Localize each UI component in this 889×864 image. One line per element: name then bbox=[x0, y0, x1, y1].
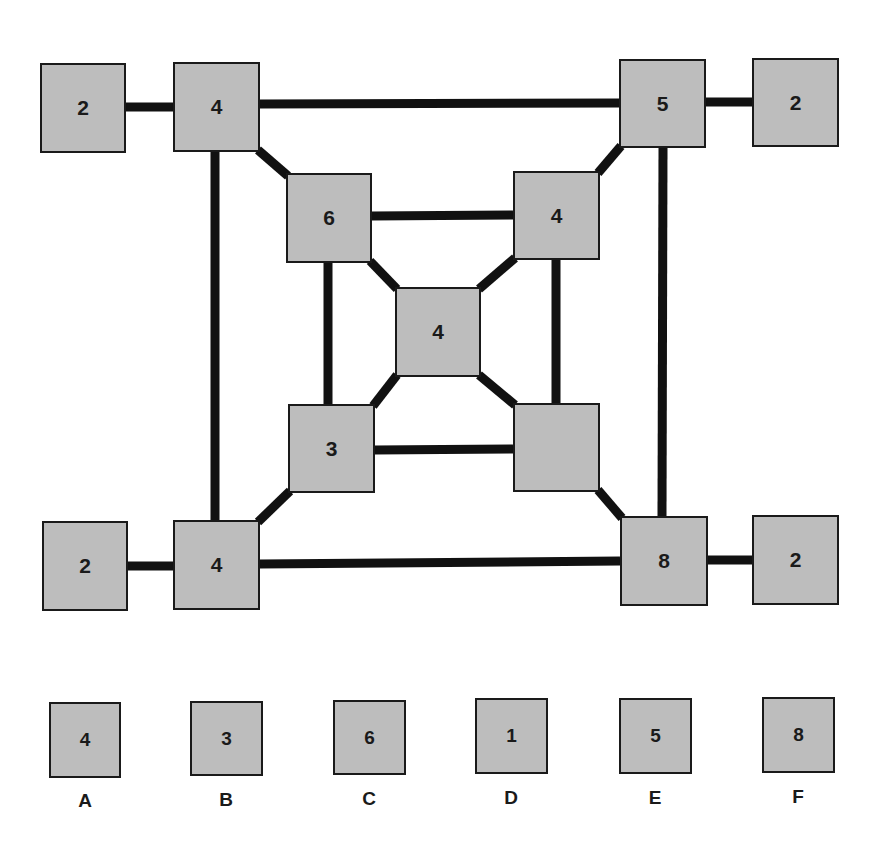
option-value: 1 bbox=[506, 725, 517, 747]
node-value: 6 bbox=[323, 206, 335, 230]
option-e-label: E bbox=[619, 787, 691, 809]
option-f-box[interactable]: 8 bbox=[762, 697, 835, 773]
option-d-label: D bbox=[475, 787, 547, 809]
option-c-box[interactable]: 6 bbox=[333, 700, 406, 775]
node-value: 2 bbox=[790, 548, 802, 572]
node-value: 4 bbox=[211, 95, 223, 119]
node-value: 4 bbox=[432, 320, 444, 344]
option-c-label: C bbox=[333, 788, 405, 810]
node-top-right-outer: 2 bbox=[752, 58, 839, 147]
node-value: 4 bbox=[551, 204, 563, 228]
option-e-box[interactable]: 5 bbox=[619, 698, 692, 774]
node-value: 2 bbox=[77, 96, 89, 120]
option-b-box[interactable]: 3 bbox=[190, 701, 263, 776]
option-value: 5 bbox=[650, 725, 661, 747]
node-inner-top-right: 4 bbox=[513, 171, 600, 260]
option-f-label: F bbox=[762, 786, 834, 808]
node-top-left-outer: 2 bbox=[40, 63, 126, 153]
node-top-right: 5 bbox=[619, 59, 706, 148]
node-value: 8 bbox=[658, 549, 670, 573]
node-bottom-left-outer: 2 bbox=[42, 521, 128, 611]
node-bottom-right: 8 bbox=[620, 516, 708, 606]
option-a-label: A bbox=[49, 790, 121, 812]
node-top-left: 4 bbox=[173, 62, 260, 152]
option-d-box[interactable]: 1 bbox=[475, 698, 548, 774]
option-value: 4 bbox=[80, 729, 91, 751]
option-value: 6 bbox=[364, 727, 375, 749]
node-value: 5 bbox=[657, 92, 669, 116]
node-inner-bottom-left: 3 bbox=[288, 404, 375, 493]
node-value: 4 bbox=[211, 553, 223, 577]
node-center: 4 bbox=[395, 287, 481, 377]
node-missing bbox=[513, 403, 600, 492]
option-value: 8 bbox=[793, 724, 804, 746]
node-inner-top-left: 6 bbox=[286, 173, 372, 263]
option-value: 3 bbox=[221, 728, 232, 750]
node-value: 3 bbox=[326, 437, 338, 461]
option-b-label: B bbox=[190, 789, 262, 811]
option-a-box[interactable]: 4 bbox=[49, 702, 121, 778]
node-bottom-left: 4 bbox=[173, 520, 260, 610]
node-bottom-right-outer: 2 bbox=[752, 515, 839, 605]
node-value: 2 bbox=[790, 91, 802, 115]
node-value: 2 bbox=[79, 554, 91, 578]
